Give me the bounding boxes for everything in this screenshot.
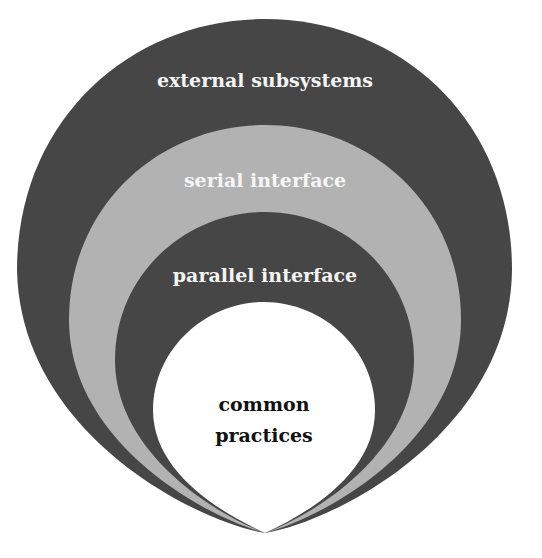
label-common-line1: common xyxy=(164,389,364,420)
label-external-subsystems: external subsystems xyxy=(0,69,530,91)
label-serial-interface: serial interface xyxy=(0,169,530,191)
label-parallel-interface: parallel interface xyxy=(0,264,530,286)
nested-circles-diagram: external subsystems serial interface par… xyxy=(0,0,542,558)
label-common-practices: common practices xyxy=(164,389,364,451)
label-common-line2: practices xyxy=(164,420,364,451)
